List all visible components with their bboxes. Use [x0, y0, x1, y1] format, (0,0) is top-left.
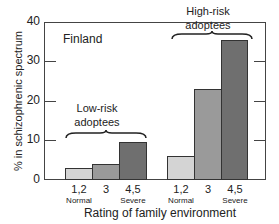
- x-tick-low-12: 1,2: [64, 183, 94, 195]
- low-risk-line1: Low-risk: [62, 101, 132, 115]
- tick-mark: [44, 101, 56, 102]
- bar-low-3: [92, 164, 120, 180]
- x-sub-high-severe: Severe: [215, 196, 255, 205]
- x-sub-low-severe: Severe: [113, 196, 153, 205]
- tick-mark: [254, 61, 266, 62]
- high-risk-line1: High-risk: [168, 4, 248, 18]
- low-risk-line2: adoptees: [62, 115, 132, 129]
- low-risk-brace: [64, 130, 148, 140]
- x-tick-high-45: 4,5: [220, 183, 250, 195]
- low-risk-label: Low-risk adoptees: [62, 101, 132, 129]
- bar-high-45: [221, 40, 248, 180]
- bar-low-45: [119, 142, 147, 180]
- bar-low-12: [65, 168, 93, 180]
- x-tick-low-3: 3: [91, 183, 121, 195]
- x-tick-high-12: 1,2: [166, 183, 196, 195]
- y-tick-10: 10: [20, 132, 40, 146]
- bar-high-3: [194, 89, 222, 180]
- high-risk-label: High-risk adoptees: [168, 4, 248, 32]
- tick-mark: [44, 140, 56, 141]
- y-tick-40: 40: [20, 14, 40, 28]
- tick-mark: [254, 101, 266, 102]
- x-sub-low-normal: Normal: [59, 196, 99, 205]
- x-sub-high-normal: Normal: [161, 196, 201, 205]
- y-tick-0: 0: [20, 172, 40, 186]
- high-risk-brace: [170, 31, 254, 41]
- y-tick-20: 20: [20, 93, 40, 107]
- high-risk-line2: adoptees: [168, 18, 248, 32]
- x-tick-high-3: 3: [193, 183, 223, 195]
- panel-label: Finland: [63, 32, 102, 46]
- bar-high-12: [167, 156, 195, 180]
- y-tick-30: 30: [20, 53, 40, 67]
- x-tick-low-45: 4,5: [118, 183, 148, 195]
- tick-mark: [44, 61, 56, 62]
- x-axis-title: Rating of family environment: [70, 206, 250, 220]
- tick-mark: [254, 140, 266, 141]
